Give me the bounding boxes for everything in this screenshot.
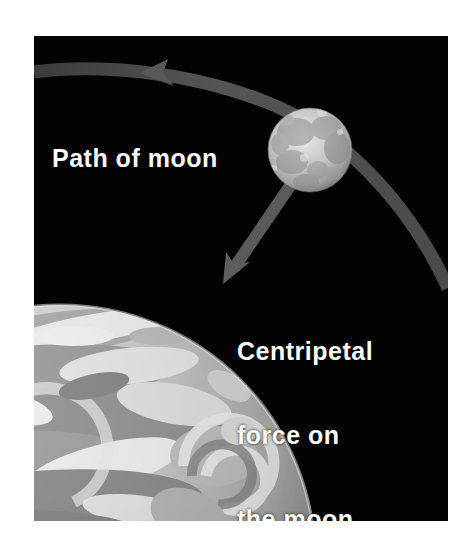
label-centripetal-force: Centripetal force on the moon: [237, 281, 373, 521]
label-path-of-moon: Path of moon: [52, 144, 218, 172]
space-photo-panel: Path of moon Centripetal force on the mo…: [34, 36, 448, 521]
centripetal-force-arrow-group: [223, 186, 290, 284]
centripetal-force-figure: Path of moon Centripetal force on the mo…: [0, 0, 476, 540]
moon-body: [268, 107, 352, 192]
label-centripetal-line-1: Centripetal: [237, 337, 373, 365]
label-centripetal-line-2: force on: [237, 421, 373, 449]
label-centripetal-line-3: the moon: [237, 505, 373, 521]
centripetal-force-shaft: [234, 186, 290, 268]
